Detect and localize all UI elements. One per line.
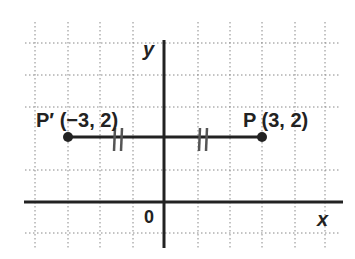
- y-axis-label: y: [143, 39, 154, 59]
- point-p-label: P (3, 2): [243, 110, 308, 130]
- coordinate-plane: y x 0 P′ (−3, 2) P (3, 2): [0, 0, 355, 259]
- origin-label: 0: [144, 208, 154, 226]
- x-axis-label: x: [317, 209, 328, 229]
- congruence-marks: [114, 128, 207, 151]
- point-p-prime: [63, 132, 73, 142]
- point-p-prime-label: P′ (−3, 2): [36, 110, 118, 130]
- point-p: [257, 132, 267, 142]
